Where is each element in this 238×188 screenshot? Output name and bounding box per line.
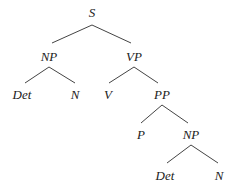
edge-vp-v	[109, 67, 134, 83]
node-v: V	[104, 87, 114, 102]
node-pp: PP	[153, 87, 170, 102]
node-vp: VP	[126, 49, 142, 64]
edge-pp-np2	[162, 105, 188, 123]
node-s: S	[89, 5, 96, 20]
edge-pp-p	[141, 105, 162, 123]
edge-np1-n1	[49, 67, 75, 83]
node-det1: Det	[12, 87, 32, 102]
node-det2: Det	[155, 168, 175, 183]
edge-np2-n2	[191, 145, 218, 163]
tree-nodes: SNPVPDetNVPPPNPDetN	[12, 5, 225, 183]
node-n1: N	[70, 87, 81, 102]
tree-edges	[25, 25, 218, 163]
node-np1: NP	[40, 49, 58, 64]
node-p: P	[136, 127, 145, 142]
node-n2: N	[214, 168, 225, 183]
edge-vp-pp	[134, 67, 158, 83]
edge-np1-det1	[25, 67, 49, 83]
edge-s-vp	[92, 25, 131, 43]
syntax-tree-diagram: SNPVPDetNVPPPNPDetN	[0, 0, 238, 188]
node-np2: NP	[182, 127, 200, 142]
edge-np2-det2	[167, 145, 191, 163]
edge-s-np1	[52, 25, 92, 43]
